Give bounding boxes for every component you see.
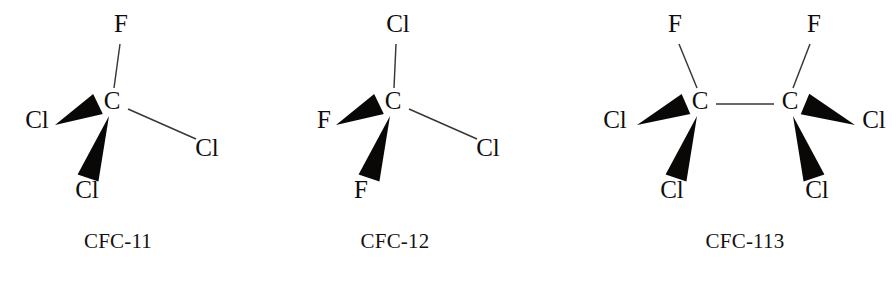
atom-label-f-top-right: F: [807, 10, 821, 37]
caption-cfc-113: CFC-113: [706, 229, 785, 253]
bond-cl-right: [128, 109, 196, 139]
caption-cfc-12: CFC-12: [361, 229, 430, 253]
atom-label-carbon-cfc-113-c2: C: [782, 87, 799, 114]
atom-label-carbon-cfc-12-c1: C: [385, 87, 402, 114]
atom-label-f-top: F: [114, 10, 128, 37]
atom-label-f-left: F: [317, 106, 331, 133]
bond-cl-top: [394, 44, 396, 88]
bond-f-top: [114, 44, 120, 88]
molecule-canvas: CFClClClCFC-11CClFFClCFC-12CCFClClFClClC…: [0, 0, 896, 289]
atom-label-cl-right: Cl: [195, 134, 219, 161]
wedge-bond-cl-left: [637, 94, 690, 125]
wedge-bond-cl-left: [55, 94, 103, 125]
bond-f-top-right: [793, 44, 810, 88]
wedge-bond-cl-bottom: [78, 116, 109, 182]
wedge-bond-cl-bottom-left: [666, 116, 697, 182]
atom-label-cl-right: Cl: [862, 106, 886, 133]
atom-label-cl-bottom-left: Cl: [660, 176, 684, 203]
atom-label-cl-left: Cl: [603, 106, 627, 133]
wedge-bond-cl-right: [801, 94, 855, 125]
atom-label-carbon-cfc-11-c1: C: [104, 87, 121, 114]
molecule-cfc-11: CFClClClCFC-11: [25, 10, 219, 253]
wedge-bond-cl-bottom-right: [793, 116, 824, 182]
caption-cfc-11: CFC-11: [84, 229, 152, 253]
atom-label-cl-left: Cl: [25, 106, 49, 133]
atom-label-cl-right: Cl: [476, 134, 500, 161]
molecule-cfc-12: CClFFClCFC-12: [317, 10, 500, 253]
cfc-structures-figure: CFClClClCFC-11CClFFClCFC-12CCFClClFClClC…: [0, 0, 896, 289]
atom-label-cl-top: Cl: [386, 10, 410, 37]
bond-f-top-left: [679, 44, 697, 88]
wedge-bond-f-left: [336, 94, 384, 125]
atom-label-cl-bottom-right: Cl: [805, 176, 829, 203]
bond-cl-right: [409, 109, 477, 139]
atom-label-f-top-left: F: [668, 10, 682, 37]
atom-label-carbon-cfc-113-c1: C: [692, 87, 709, 114]
atom-label-f-bottom: F: [354, 176, 368, 203]
wedge-bond-f-bottom: [359, 116, 390, 182]
atom-label-cl-bottom: Cl: [75, 176, 99, 203]
molecule-cfc-113: CCFClClFClClCFC-113: [603, 10, 886, 253]
